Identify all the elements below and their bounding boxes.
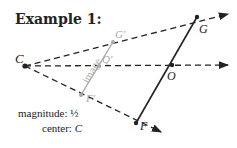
- label-c: C: [15, 51, 24, 66]
- label-o: O: [167, 69, 176, 83]
- point-g-prime: [111, 40, 115, 44]
- center-caption: center: C: [42, 122, 82, 134]
- point-f-prime: [79, 93, 83, 97]
- label-q-prime: Q′: [102, 53, 113, 65]
- center-value: C: [75, 122, 82, 134]
- magnitude-label: magnitude:: [18, 107, 68, 119]
- point-o: [170, 63, 174, 67]
- center-label: center:: [42, 122, 72, 134]
- image-label: image: [79, 56, 103, 85]
- magnitude-caption: magnitude: ½: [18, 107, 79, 119]
- label-f: F: [139, 119, 148, 133]
- point-f: [134, 121, 138, 125]
- dilation-diagram: C G O F G′ Q′ F′ image: [0, 0, 237, 148]
- label-g-prime: G′: [115, 28, 126, 40]
- label-g: G: [199, 22, 208, 36]
- ray-cg: [25, 14, 228, 66]
- ray-co: [25, 65, 228, 66]
- magnitude-value: ½: [70, 107, 78, 119]
- point-g: [195, 15, 199, 19]
- label-f-prime: F′: [85, 92, 96, 104]
